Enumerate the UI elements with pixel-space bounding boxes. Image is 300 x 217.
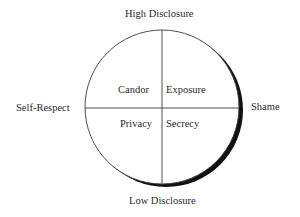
axis-label-left: Self-Respect (16, 103, 70, 114)
axis-label-top: High Disclosure (125, 9, 194, 20)
quadrant-label-exposure: Exposure (166, 85, 206, 96)
quadrant-label-candor: Candor (118, 85, 149, 96)
quadrant-label-secrecy: Secrecy (166, 119, 199, 130)
quadrant-label-privacy: Privacy (120, 119, 152, 130)
axis-label-right: Shame (251, 102, 280, 113)
axis-label-bottom: Low Disclosure (129, 196, 196, 207)
